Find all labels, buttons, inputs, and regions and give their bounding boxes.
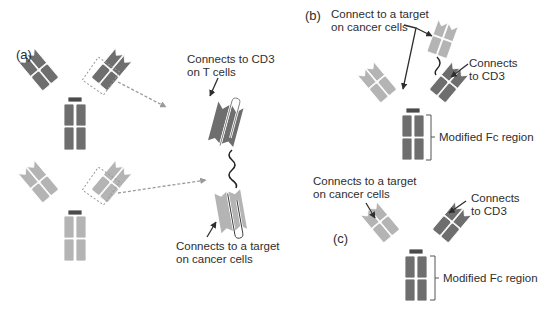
antibody-c (361, 202, 472, 301)
dashed-arrow-a-bottom (118, 180, 206, 193)
callout-b-cd3: Connects to CD3 (469, 57, 518, 83)
callout-a-target: Connects to a target on cancer cells (176, 240, 280, 266)
arrow-b-target (403, 25, 416, 89)
panel-label-c: (c) (333, 231, 348, 246)
scfv-cd3-domain (208, 94, 246, 149)
bracket-b-fc (426, 115, 435, 160)
dashed-arrow-a-top (118, 82, 166, 107)
panel-label-a: (a) (16, 47, 32, 62)
arrow-a-cd3 (210, 78, 218, 96)
scfv-target-domain (214, 189, 248, 241)
linker-b (435, 57, 440, 75)
callout-b-fc: Modified Fc region (439, 131, 534, 144)
arrow-a-target (207, 222, 216, 237)
callout-b-target: Connect to a target on cancer cells (331, 8, 429, 34)
panel-label-b: (b) (305, 8, 321, 23)
bispecific-antibody-figure: (a) (b) (c) Connects to CD3 on T cells C… (0, 0, 543, 312)
callout-c-cd3: Connects to CD3 (471, 192, 520, 218)
bracket-c-fc (430, 256, 439, 300)
scfv-linker (229, 150, 237, 188)
callout-c-target: Connects to a target on cancer cells (313, 175, 417, 201)
callout-c-fc: Modified Fc region (443, 272, 538, 285)
antibody-a-bottom (18, 160, 132, 261)
antibody-a-top (18, 48, 132, 150)
callout-a-cd3: Connects to CD3 on T cells (187, 53, 275, 79)
